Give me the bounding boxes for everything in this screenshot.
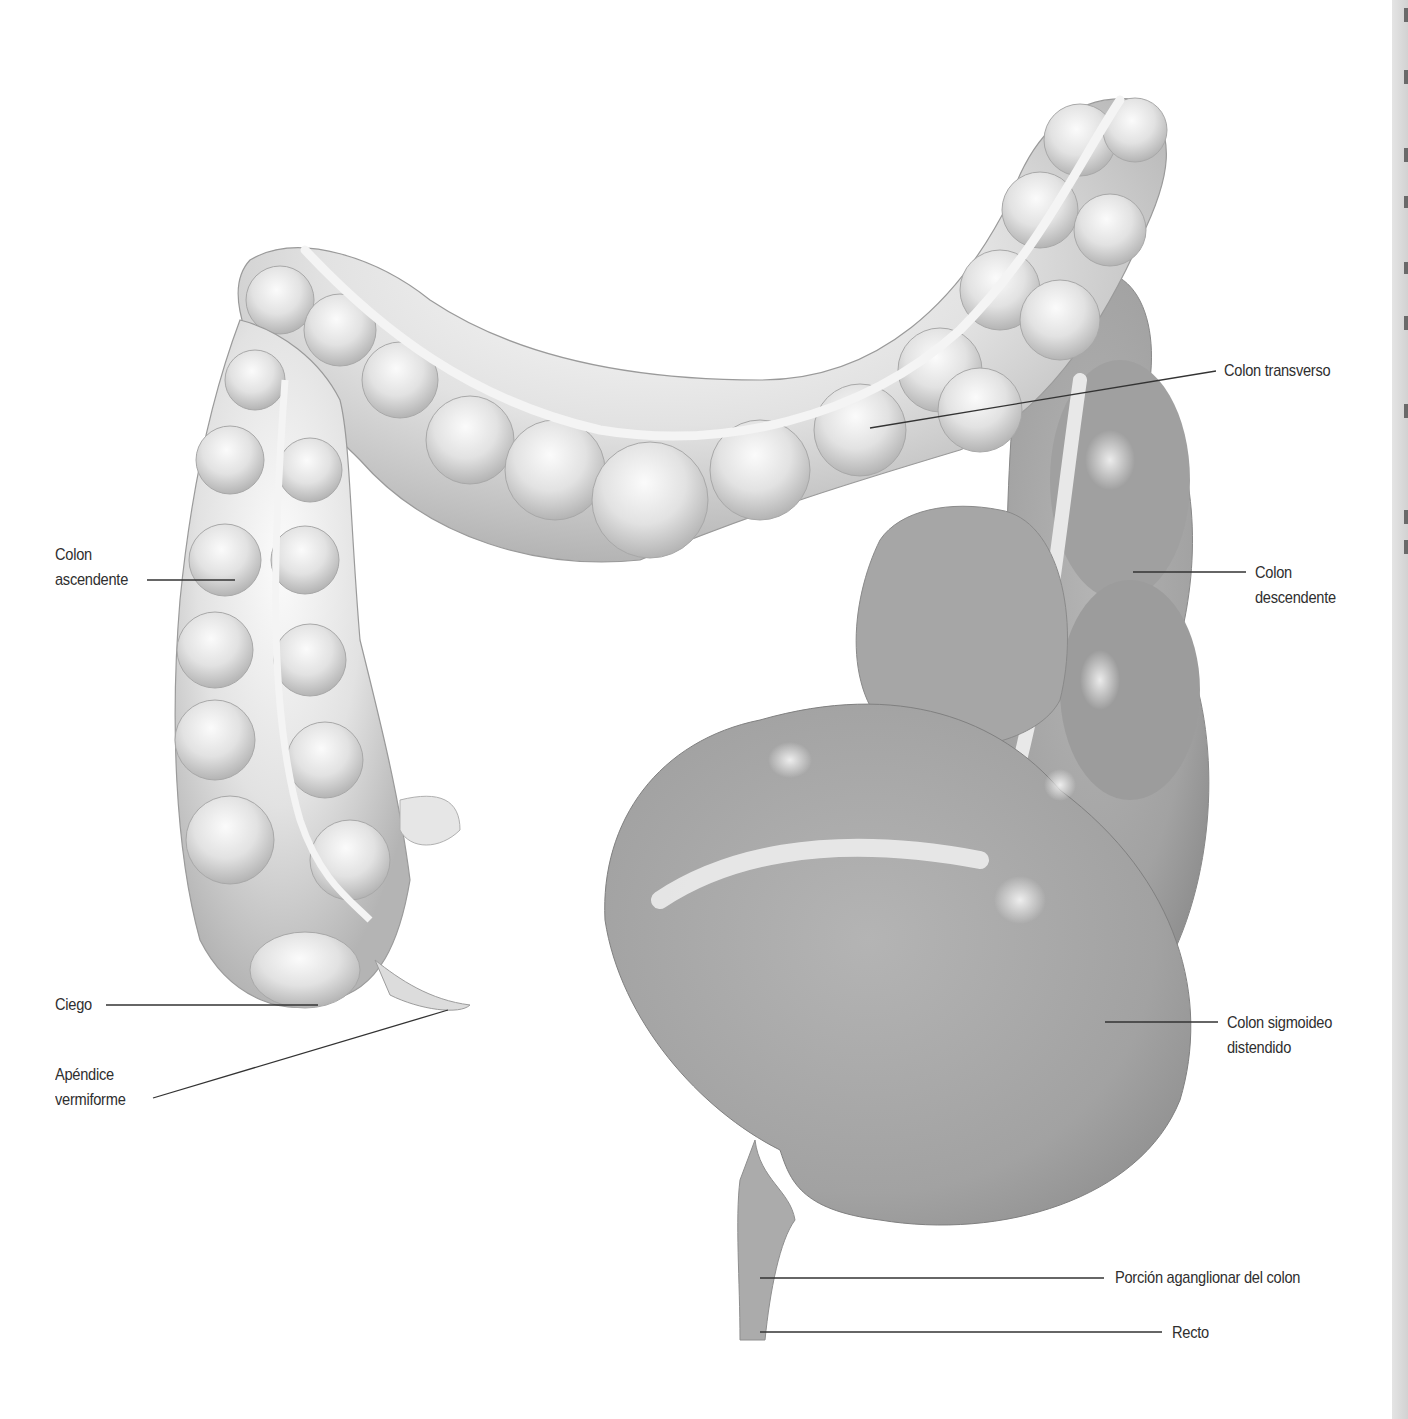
edge-mark bbox=[1404, 262, 1408, 274]
edge-mark bbox=[1404, 196, 1408, 208]
label-text: Colon bbox=[55, 542, 128, 567]
label-colon-sigmoideo-distendido: Colon sigmoideo distendido bbox=[1227, 1010, 1332, 1060]
page-edge-strip bbox=[1392, 0, 1408, 1419]
colon-illustration bbox=[0, 0, 1408, 1419]
edge-mark bbox=[1404, 148, 1408, 162]
label-colon-ascendente: Colon ascendente bbox=[55, 542, 128, 592]
edge-mark bbox=[1404, 540, 1408, 554]
label-porcion-aganglionar: Porción aganglionar del colon bbox=[1115, 1265, 1300, 1290]
edge-mark bbox=[1404, 70, 1408, 84]
label-text: Ciego bbox=[55, 992, 92, 1017]
edge-mark bbox=[1404, 8, 1408, 22]
label-text: ascendente bbox=[55, 567, 128, 592]
label-colon-descendente: Colon descendente bbox=[1255, 560, 1336, 610]
label-ciego: Ciego bbox=[55, 992, 92, 1017]
label-apendice-vermiforme: Apéndice vermiforme bbox=[55, 1062, 126, 1112]
label-text: Colon transverso bbox=[1224, 358, 1330, 383]
edge-mark bbox=[1404, 510, 1408, 524]
rectum-shape bbox=[738, 1140, 795, 1340]
edge-mark bbox=[1404, 404, 1408, 418]
label-text: Recto bbox=[1172, 1320, 1209, 1345]
label-colon-transverso: Colon transverso bbox=[1224, 358, 1330, 383]
appendix-shape bbox=[375, 960, 470, 1010]
label-text: Porción aganglionar del colon bbox=[1115, 1265, 1300, 1290]
label-text: distendido bbox=[1227, 1035, 1332, 1060]
label-text: Colon sigmoideo bbox=[1227, 1010, 1332, 1035]
label-text: vermiforme bbox=[55, 1087, 126, 1112]
anatomy-figure: Colon transverso Colon ascendente Colon … bbox=[0, 0, 1408, 1419]
label-text: Colon bbox=[1255, 560, 1336, 585]
label-text: descendente bbox=[1255, 585, 1336, 610]
label-recto: Recto bbox=[1172, 1320, 1209, 1345]
leader-apendice bbox=[153, 1010, 448, 1098]
edge-mark bbox=[1404, 316, 1408, 330]
label-text: Apéndice bbox=[55, 1062, 126, 1087]
